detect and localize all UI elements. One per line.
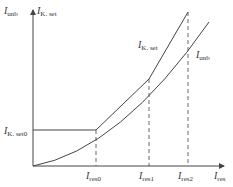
x-axis-label: Ires xyxy=(214,171,226,183)
x-marker-res2: Ires2 xyxy=(178,171,193,183)
y-marker-kset0: IK. set0 xyxy=(4,126,27,138)
x-marker-res0: Ires0 xyxy=(86,171,101,183)
curve-k-set xyxy=(33,12,188,130)
y-axis-label-kset: IK. set xyxy=(37,6,57,18)
diagram-graphics xyxy=(0,0,233,187)
x-marker-res1: Ires1 xyxy=(139,171,154,183)
diagram: Iunb IK. set IK. set Iunb IK. set0 Ires0… xyxy=(0,0,233,187)
curve-label-unb: Iunb xyxy=(196,50,210,62)
y-axis-label-unb: Iunb xyxy=(4,6,18,18)
curve-unb xyxy=(33,22,209,166)
curve-label-kset: IK. set xyxy=(138,40,158,52)
